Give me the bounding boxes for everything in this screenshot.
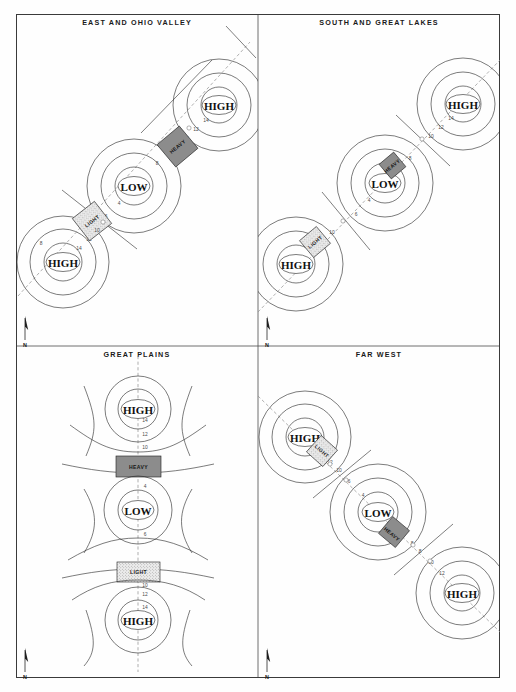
pressure-label-high: HIGH xyxy=(123,404,153,416)
track-node xyxy=(341,219,345,223)
panel-great-plains: GREAT PLAINS HIGH 14 12 10 HEAVY xyxy=(23,350,214,680)
track-node xyxy=(344,478,348,482)
front-line-upper xyxy=(226,26,256,58)
pressure-label-high: HIGH xyxy=(123,615,153,627)
track-node xyxy=(411,543,415,547)
pressure-label-low: LOW xyxy=(121,181,148,193)
isobar-value: 4 xyxy=(362,493,365,498)
isobar-value: 12 xyxy=(142,432,148,437)
pressure-center-low: LOW 4 6 8 xyxy=(337,135,433,231)
pressure-label-high: HIGH xyxy=(204,100,234,112)
isobar-value: 10 xyxy=(428,134,434,139)
precipitation-area-heavy: HEAVY xyxy=(116,456,161,477)
pressure-label-low: LOW xyxy=(365,507,392,519)
pressure-label-high: HIGH xyxy=(281,259,311,271)
pressure-label-high: HIGH xyxy=(447,588,477,600)
isobar-value: 10 xyxy=(329,230,335,235)
isobar-value: 12 xyxy=(438,125,444,130)
track-node xyxy=(420,137,424,141)
isobar-value: 12 xyxy=(193,127,199,132)
compass-rose-great-plains: N xyxy=(23,648,28,680)
precipitation-area-light: LIGHT xyxy=(300,227,331,258)
panel-title-east-and-ohio-valley: EAST AND OHIO VALLEY xyxy=(82,18,192,27)
compass-rose-far-west: N xyxy=(265,648,270,680)
isobar-value: 6 xyxy=(355,212,358,217)
isobar-value: 4 xyxy=(144,484,147,489)
compass-north-label: N xyxy=(265,674,269,680)
isobar-value: 8 xyxy=(156,161,159,166)
isobar-value-light: 10 xyxy=(94,228,100,233)
isobar-value: 10 xyxy=(142,445,148,450)
precip-label-heavy: HEAVY xyxy=(129,464,148,470)
isobar-value: 8 xyxy=(409,156,412,161)
isobar-value: 14 xyxy=(142,605,148,610)
isobar-value: 14 xyxy=(142,418,148,423)
pressure-label-high: HIGH xyxy=(448,99,478,111)
isobar-value: 10 xyxy=(142,583,148,588)
pressure-center-high-sw: HIGH 14 12 10 xyxy=(249,217,343,311)
isobar-value: 14 xyxy=(76,246,82,251)
panel-east-and-ohio-valley: EAST AND OHIO VALLEY HIGH 14 12 8 xyxy=(17,18,265,348)
track-node xyxy=(328,462,332,466)
compass-north-label: N xyxy=(23,674,27,680)
precipitation-area-light: LIGHT xyxy=(117,562,160,582)
precip-label-light: LIGHT xyxy=(130,569,148,575)
compass-rose-south-and-great-lakes: N xyxy=(265,316,270,348)
isobar-value: 8 xyxy=(40,241,43,246)
isobar-value: 10 xyxy=(336,468,342,473)
figure-canvas: EAST AND OHIO VALLEY HIGH 14 12 8 xyxy=(0,0,516,692)
compass-rose-east-and-ohio-valley: N xyxy=(23,316,28,348)
isobar-value: 4 xyxy=(118,201,121,206)
panel-title-south-and-great-lakes: SOUTH AND GREAT LAKES xyxy=(319,18,439,27)
track-node xyxy=(428,559,432,563)
compass-north-label: N xyxy=(265,342,269,348)
pressure-center-high-north: HIGH 14 12 10 xyxy=(70,376,206,456)
track-node xyxy=(187,126,191,130)
precipitation-area-heavy: HEAVY xyxy=(157,126,198,167)
track-node xyxy=(101,220,105,224)
precipitation-area-light: LIGHT xyxy=(72,201,111,240)
isobar-value: 12 xyxy=(439,571,445,576)
isobar-value: 6 xyxy=(144,532,147,537)
pressure-label-low: LOW xyxy=(125,505,152,517)
panel-title-far-west: FAR WEST xyxy=(356,350,402,359)
isobar-value: 4 xyxy=(368,198,371,203)
panel-title-great-plains: GREAT PLAINS xyxy=(104,350,171,359)
pressure-center-high-south: HIGH 12 14 xyxy=(72,580,205,666)
pressure-center-high-ne: HIGH 14 12 10 xyxy=(417,58,509,150)
isobar-value: 14 xyxy=(448,116,454,121)
panel-far-west: FAR WEST HIGH 14 12 10 LIGHT xyxy=(258,350,508,680)
isobar-value: 14 xyxy=(203,118,209,123)
compass-north-label: N xyxy=(23,342,27,348)
front-line-warm xyxy=(322,192,370,250)
isobar-value: 12 xyxy=(142,592,148,597)
pressure-label-low: LOW xyxy=(372,178,399,190)
pressure-label-high: HIGH xyxy=(48,257,78,269)
pressure-center-high-nw: HIGH 14 12 10 xyxy=(259,391,351,483)
panel-south-and-great-lakes: SOUTH AND GREAT LAKES HIGH 14 12 10 LO xyxy=(249,18,509,348)
weather-schematic-figure: EAST AND OHIO VALLEY HIGH 14 12 8 xyxy=(0,0,516,692)
